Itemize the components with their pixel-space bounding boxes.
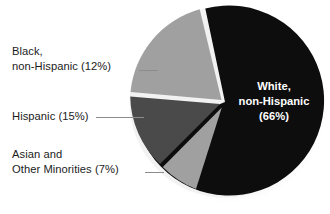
- slice-label-asian-line2: Other Minorities (7%): [12, 162, 119, 177]
- pie-chart: Black, non-Hispanic (12%) Hispanic (15%)…: [0, 0, 330, 214]
- slice-label-white-line3: (66%): [228, 109, 320, 124]
- slice-label-asian-other-minorities: Asian and Other Minorities (7%): [12, 147, 119, 176]
- leader-line-hispanic: [96, 117, 144, 118]
- slice-label-white-line1: White,: [228, 79, 320, 94]
- leader-line-black-non-hispanic: [139, 70, 158, 71]
- slice-label-hispanic: Hispanic (15%): [12, 109, 89, 124]
- leader-line-asian-other-minorities: [145, 172, 164, 173]
- slice-label-white-non-hispanic: White, non-Hispanic (66%): [228, 79, 320, 123]
- slice-label-black-line1: Black,: [12, 44, 111, 59]
- slice-label-asian-line1: Asian and: [12, 147, 119, 162]
- slice-label-white-line2: non-Hispanic: [228, 94, 320, 109]
- slice-label-black-non-hispanic: Black, non-Hispanic (12%): [12, 44, 111, 73]
- slice-label-hispanic-line1: Hispanic (15%): [12, 109, 89, 124]
- slice-label-black-line2: non-Hispanic (12%): [12, 59, 111, 74]
